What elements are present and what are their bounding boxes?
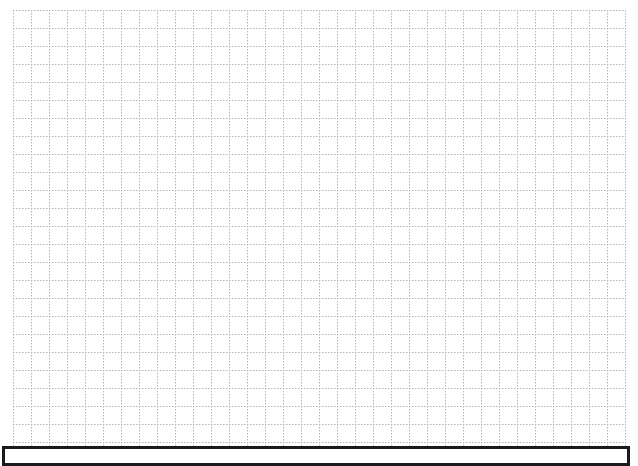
answer-box[interactable] (2, 446, 630, 466)
